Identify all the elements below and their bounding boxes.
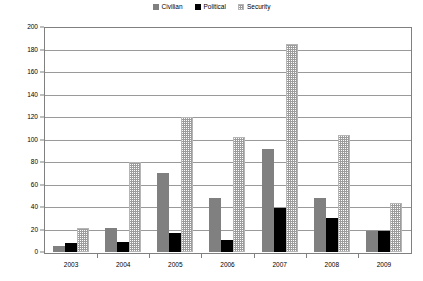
bar-political-2007 <box>274 208 286 252</box>
bar-group-2006 <box>201 28 253 252</box>
bar-civilian-2003 <box>53 246 65 252</box>
bar-group-2007 <box>254 28 306 252</box>
y-tick-label: 40 <box>31 204 38 211</box>
x-tick-label-2009: 2009 <box>377 262 391 269</box>
y-tick-label: 140 <box>27 91 38 98</box>
y-axis: 020406080100120140160180200 <box>0 27 44 253</box>
bar-group-2004 <box>97 28 149 252</box>
x-tick-mark <box>306 254 307 258</box>
y-tick-label: 20 <box>31 226 38 233</box>
bars-layer <box>45 28 410 252</box>
legend-swatch-civilian-icon <box>153 4 159 10</box>
x-tick-label-2007: 2007 <box>272 262 286 269</box>
x-tick-mark <box>149 254 150 258</box>
bar-chart: Civilian Political Security 020406080100… <box>0 0 423 281</box>
legend-entry-political: Political <box>195 4 226 11</box>
bar-group-2009 <box>358 28 410 252</box>
bar-group-2005 <box>149 28 201 252</box>
legend-entry-civilian: Civilian <box>153 4 183 11</box>
x-tick-label-2006: 2006 <box>220 262 234 269</box>
bar-political-2008 <box>326 218 338 252</box>
bar-security-2007 <box>286 44 298 252</box>
bar-civilian-2004 <box>105 228 117 252</box>
bar-security-2005 <box>181 117 193 252</box>
bar-civilian-2007 <box>262 149 274 253</box>
bar-political-2006 <box>221 240 233 252</box>
y-tick-label: 80 <box>31 159 38 166</box>
bar-political-2009 <box>378 231 390 252</box>
bar-security-2004 <box>129 162 141 252</box>
y-tick-label: 60 <box>31 181 38 188</box>
bar-security-2009 <box>390 203 402 253</box>
legend-swatch-political-icon <box>195 4 201 10</box>
x-tick-label-2008: 2008 <box>325 262 339 269</box>
y-tick-label: 160 <box>27 69 38 76</box>
bar-security-2008 <box>338 135 350 252</box>
x-tick-label-2004: 2004 <box>116 262 130 269</box>
y-tick-label: 120 <box>27 114 38 121</box>
y-tick-label: 0 <box>34 249 38 256</box>
x-axis: 2003200420052006200720082009 <box>45 254 410 276</box>
bar-political-2004 <box>117 242 129 252</box>
legend-label-security: Security <box>247 4 270 11</box>
bar-political-2003 <box>65 243 77 252</box>
y-tick-label: 180 <box>27 46 38 53</box>
bar-political-2005 <box>169 233 181 252</box>
legend-swatch-security-icon <box>238 4 244 10</box>
legend-label-civilian: Civilian <box>162 4 183 11</box>
legend-entry-security: Security <box>238 4 270 11</box>
bar-group-2008 <box>306 28 358 252</box>
bar-civilian-2008 <box>314 198 326 252</box>
chart-legend: Civilian Political Security <box>0 4 423 11</box>
bar-group-2003 <box>45 28 97 252</box>
y-tick-label: 200 <box>27 24 38 31</box>
bar-security-2003 <box>77 228 89 252</box>
x-tick-label-2003: 2003 <box>64 262 78 269</box>
bar-civilian-2006 <box>209 198 221 252</box>
y-tick-label: 100 <box>27 136 38 143</box>
x-tick-mark <box>201 254 202 258</box>
x-tick-mark <box>97 254 98 258</box>
bar-civilian-2005 <box>157 173 169 252</box>
bar-security-2006 <box>233 137 245 252</box>
bar-civilian-2009 <box>366 231 378 252</box>
x-tick-label-2005: 2005 <box>168 262 182 269</box>
x-tick-mark <box>358 254 359 258</box>
legend-label-political: Political <box>204 4 226 11</box>
x-tick-mark <box>254 254 255 258</box>
